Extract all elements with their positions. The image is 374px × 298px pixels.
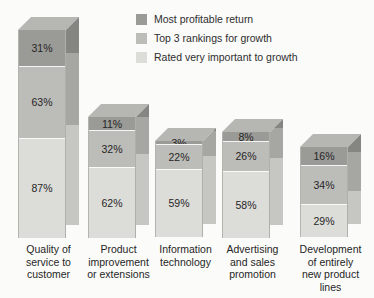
bar-front-face: 16%34%29% (300, 147, 348, 237)
category-label-line: and sales (213, 256, 292, 269)
bar-side-face (348, 134, 361, 238)
segment-value-label: 11% (89, 118, 135, 130)
bar-segment: 8% (222, 132, 270, 141)
bar-front-face: 31%63%87% (18, 30, 66, 238)
bar-group: 11%32%62% (88, 104, 149, 238)
category-label-line: Quality of (9, 243, 88, 256)
segment-value-label: 26% (223, 150, 269, 162)
category-label-line: Advertising (213, 243, 292, 256)
segment-divider (19, 66, 65, 67)
segment-divider (89, 167, 135, 168)
bar-segment: 16% (300, 147, 348, 165)
bar-group: 3%22%59% (155, 128, 216, 238)
bar-side-segment (136, 154, 149, 225)
bar-group: 31%63%87% (18, 17, 79, 238)
bar-segment: 29% (300, 204, 348, 237)
bar-side-segment (66, 125, 79, 225)
bar-segment: 87% (18, 138, 66, 238)
bar-segment: 31% (18, 30, 66, 66)
segment-divider (223, 141, 269, 142)
segment-value-label: 31% (19, 42, 65, 54)
category-axis-label: Developmentof entirelynew productlines (291, 243, 370, 293)
bar-segment: 26% (222, 141, 270, 171)
bar-side-face (203, 128, 216, 238)
bar-side-face (136, 104, 149, 238)
segment-value-label: 58% (223, 199, 269, 211)
category-label-line: customer (9, 268, 88, 281)
bar-segment: 32% (88, 130, 136, 167)
bar-side-segment (203, 156, 216, 224)
category-label-line: new product (291, 268, 370, 281)
plot-area: 31%63%87%Quality ofservice tocustomer11%… (0, 0, 374, 298)
bar-segment: 63% (18, 66, 66, 138)
segment-divider (301, 204, 347, 205)
segment-value-label: 32% (89, 143, 135, 155)
segment-value-label: 34% (301, 179, 347, 191)
bar-side-segment (348, 152, 361, 191)
bar-side-segment (270, 128, 283, 158)
segment-value-label: 16% (301, 150, 347, 162)
segment-value-label: 62% (89, 197, 135, 209)
category-axis-label: Quality ofservice tocustomer (9, 243, 88, 281)
bar-side-segment (66, 53, 79, 125)
bar-side-segment (348, 191, 361, 224)
category-label-line: or extensions (79, 268, 158, 281)
category-axis-label: Advertisingand salespromotion (213, 243, 292, 281)
segment-value-label: 59% (156, 197, 202, 209)
category-label-line: service to (9, 256, 88, 269)
bar-front-face: 3%22%59% (155, 141, 203, 237)
segment-divider (156, 169, 202, 170)
category-label-line: promotion (213, 268, 292, 281)
bar-segment: 58% (222, 171, 270, 238)
segment-value-label: 22% (156, 151, 202, 163)
category-label-line: Development (291, 243, 370, 256)
segment-divider (156, 144, 202, 145)
segment-divider (89, 130, 135, 131)
bar-side-segment (136, 117, 149, 154)
bar-segment: 34% (300, 165, 348, 204)
segment-value-label: 29% (301, 215, 347, 227)
segment-value-label: 87% (19, 182, 65, 194)
bar-segment: 59% (155, 169, 203, 237)
bar-segment: 22% (155, 144, 203, 169)
segment-divider (223, 171, 269, 172)
bar-front-face: 11%32%62% (88, 117, 136, 238)
bar-group: 8%26%58% (222, 119, 283, 238)
bar-front-face: 8%26%58% (222, 132, 270, 238)
bar-side-face (66, 17, 79, 238)
chart-canvas: Most profitable return Top 3 rankings fo… (0, 0, 374, 298)
bar-segment: 62% (88, 167, 136, 238)
segment-divider (301, 165, 347, 166)
category-label-line: of entirely (291, 256, 370, 269)
category-label-line: lines (291, 281, 370, 294)
bar-segment: 11% (88, 117, 136, 130)
bar-side-face (270, 119, 283, 238)
bar-side-segment (270, 158, 283, 225)
bar-group: 16%34%29% (300, 134, 361, 238)
segment-value-label: 63% (19, 96, 65, 108)
segment-divider (19, 138, 65, 139)
